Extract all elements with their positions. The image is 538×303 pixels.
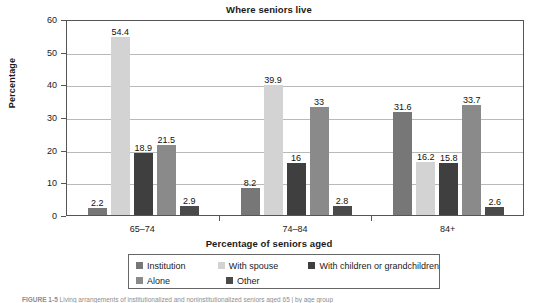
bar <box>134 153 153 215</box>
x-axis-ticks: 65–7474–8484+ <box>66 216 524 238</box>
legend-label: Alone <box>147 276 170 286</box>
y-tick-label: 50 <box>47 48 57 58</box>
bar-value-label: 16.2 <box>417 152 435 162</box>
x-tick-mark <box>371 216 372 221</box>
figure-caption: FIGURE 1-5 Living arrangements of instit… <box>22 296 522 303</box>
bar-value-label: 16 <box>291 153 301 163</box>
bar-value-label: 2.2 <box>91 198 104 208</box>
plot-area: 2.254.418.921.52.98.239.916332.831.616.2… <box>66 20 524 216</box>
bar-value-label: 18.9 <box>135 143 153 153</box>
legend-swatch-icon <box>308 262 315 269</box>
x-tick-label: 84+ <box>440 224 455 234</box>
legend-item[interactable]: Institution <box>136 261 218 271</box>
bar-value-label: 15.8 <box>440 153 458 163</box>
legend-item[interactable]: With children or grandchildren <box>308 261 439 271</box>
x-axis-title: Percentage of seniors aged <box>0 238 538 249</box>
bar-value-label: 8.2 <box>244 178 257 188</box>
legend-row-bottom: AloneOther <box>136 273 439 288</box>
legend-swatch-icon <box>136 277 143 284</box>
y-tick-label: 10 <box>47 178 57 188</box>
bar <box>157 145 176 215</box>
bar-value-label: 33 <box>314 97 324 107</box>
y-tick-label: 30 <box>47 113 57 123</box>
chart-title: Where seniors live <box>0 4 538 15</box>
legend-label: With spouse <box>229 261 279 271</box>
legend-label: With children or grandchildren <box>319 261 439 271</box>
bar-value-label: 39.9 <box>264 75 282 85</box>
bars-layer: 2.254.418.921.52.98.239.916332.831.616.2… <box>67 21 523 215</box>
bar <box>485 207 504 215</box>
bar-value-label: 33.7 <box>463 95 481 105</box>
bar <box>393 112 412 215</box>
figure-container: Where seniors live Percentage 0102030405… <box>0 0 538 303</box>
bar-value-label: 2.8 <box>336 196 349 206</box>
y-axis-ticks: 0102030405060 <box>0 20 66 216</box>
x-tick-label: 74–84 <box>282 224 307 234</box>
bar <box>264 85 283 215</box>
y-tick-label: 60 <box>47 15 57 25</box>
bar-value-label: 54.4 <box>112 27 130 37</box>
legend-swatch-icon <box>218 262 225 269</box>
bar <box>416 162 435 215</box>
bar-value-label: 2.6 <box>488 197 501 207</box>
chart-legend: InstitutionWith spouseWith children or g… <box>128 254 440 289</box>
bar <box>462 105 481 215</box>
bar <box>439 163 458 215</box>
y-tick-label: 0 <box>52 211 57 221</box>
bar <box>88 208 107 215</box>
bar-value-label: 21.5 <box>158 135 176 145</box>
y-tick-label: 40 <box>47 80 57 90</box>
bar-value-label: 31.6 <box>394 102 412 112</box>
bar <box>111 37 130 215</box>
legend-swatch-icon <box>136 262 143 269</box>
bar <box>287 163 306 215</box>
bar-value-label: 2.9 <box>183 196 196 206</box>
caption-prefix: FIGURE 1-5 <box>22 296 58 303</box>
legend-item[interactable]: Other <box>226 276 260 286</box>
caption-text: Living arrangements of institutionalized… <box>60 296 333 303</box>
y-tick-label: 20 <box>47 146 57 156</box>
bar <box>180 206 199 215</box>
legend-item[interactable]: With spouse <box>218 261 309 271</box>
legend-label: Other <box>237 276 260 286</box>
bar <box>241 188 260 215</box>
legend-item[interactable]: Alone <box>136 276 226 286</box>
legend-swatch-icon <box>226 277 233 284</box>
legend-row-top: InstitutionWith spouseWith children or g… <box>136 258 439 273</box>
legend-label: Institution <box>147 261 186 271</box>
x-tick-mark <box>219 216 220 221</box>
bar <box>310 107 329 215</box>
bar <box>333 206 352 215</box>
x-tick-label: 65–74 <box>130 224 155 234</box>
